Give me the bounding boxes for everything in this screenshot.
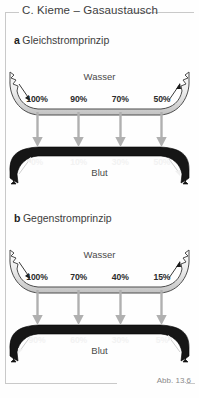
water-value-b-0: 100%: [18, 272, 56, 282]
frame-rule-top-left: [5, 12, 19, 13]
section-letter-a: a: [14, 34, 20, 46]
blood-values-a: 0% 10% 30% 50%: [18, 157, 181, 167]
water-label-a: Wasser: [0, 71, 199, 82]
figure-header-title: C. Kieme – Gasaustausch: [22, 4, 158, 16]
figure-caption: Abb. 13.6: [157, 376, 191, 385]
blood-values-b: 90% 60% 30% 5%: [18, 335, 181, 345]
transfer-arrow: [60, 290, 98, 326]
water-value-a-0: 100%: [18, 94, 56, 104]
section-heading-a: aGleichstromprinzip: [14, 34, 109, 46]
frame-rule-bottom: [5, 383, 117, 384]
transfer-arrow: [143, 112, 181, 148]
blood-value-a-1: 10%: [60, 157, 98, 167]
section-title-b: Gegenstromprinzip: [23, 212, 112, 224]
transfer-arrow: [143, 290, 181, 326]
water-value-a-3: 50%: [143, 94, 181, 104]
water-label-b: Wasser: [0, 249, 199, 260]
water-value-a-2: 70%: [101, 94, 139, 104]
transfer-arrow: [18, 112, 56, 148]
water-values-a: 100% 90% 70% 50%: [18, 94, 181, 104]
blood-value-b-2: 30%: [101, 335, 139, 345]
section-title-a: Gleichstromprinzip: [22, 34, 109, 46]
transfer-arrows-b: [18, 290, 181, 326]
blood-label-a: Blut: [0, 167, 199, 178]
blood-value-a-3: 50%: [143, 157, 181, 167]
figure-page: C. Kieme – Gasaustausch aGleichstromprin…: [0, 0, 199, 398]
blood-label-b: Blut: [0, 345, 199, 356]
blood-value-b-1: 60%: [60, 335, 98, 345]
section-letter-b: b: [14, 212, 20, 224]
blood-value-b-0: 90%: [18, 335, 56, 345]
water-value-b-3: 15%: [143, 272, 181, 282]
transfer-arrow: [18, 290, 56, 326]
water-value-b-2: 40%: [101, 272, 139, 282]
water-values-b: 100% 70% 40% 15%: [18, 272, 181, 282]
blood-value-a-0: 0%: [18, 157, 56, 167]
blood-value-b-3: 5%: [143, 335, 181, 345]
water-value-a-1: 90%: [60, 94, 98, 104]
transfer-arrow: [101, 290, 139, 326]
blood-value-a-2: 30%: [101, 157, 139, 167]
transfer-arrow: [101, 112, 139, 148]
section-heading-b: bGegenstromprinzip: [14, 212, 112, 224]
transfer-arrows-a: [18, 112, 181, 148]
transfer-arrow: [60, 112, 98, 148]
water-value-b-1: 70%: [60, 272, 98, 282]
